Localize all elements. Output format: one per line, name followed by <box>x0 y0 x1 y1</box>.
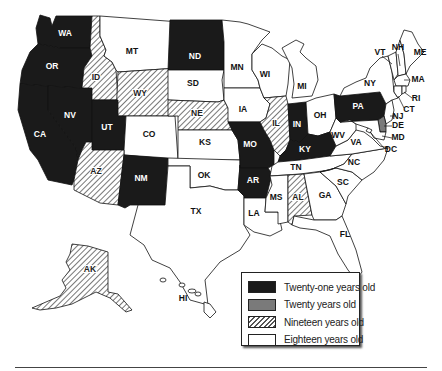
label-MT: MT <box>126 46 139 56</box>
label-DE: DE <box>392 120 404 130</box>
label-KS: KS <box>199 137 211 147</box>
legend-item-19: Nineteen years old <box>248 314 359 330</box>
label-NE: NE <box>191 108 203 118</box>
label-OR: OR <box>46 61 59 71</box>
label-KY: KY <box>299 144 311 154</box>
label-AL: AL <box>292 192 303 202</box>
label-PA: PA <box>352 101 363 111</box>
label-AR: AR <box>247 175 259 185</box>
label-UT: UT <box>101 122 113 132</box>
label-MS: MS <box>270 192 283 202</box>
label-NM: NM <box>134 173 147 183</box>
label-VA: VA <box>350 137 361 147</box>
label-IL: IL <box>272 118 280 128</box>
label-IA: IA <box>239 104 248 114</box>
label-NH: NH <box>392 42 404 52</box>
swatch-nineteen <box>248 316 276 328</box>
label-ID: ID <box>92 72 101 82</box>
label-WA: WA <box>58 28 72 38</box>
state-ND <box>168 20 224 70</box>
legend-label: Twenty years old <box>284 299 356 310</box>
label-OK: OK <box>198 170 212 180</box>
label-SD: SD <box>187 78 199 88</box>
legend-label: Twenty-one years old <box>284 282 375 293</box>
label-ND: ND <box>189 51 201 61</box>
label-ME: ME <box>414 47 427 57</box>
label-TN: TN <box>290 162 301 172</box>
label-MD: MD <box>391 132 404 142</box>
legend-item-18: Eighteen years old <box>248 332 359 348</box>
label-MO: MO <box>243 139 257 149</box>
label-NV: NV <box>64 110 76 120</box>
legend-item-21: Twenty-one years old <box>248 279 359 295</box>
legend: Twenty-one years old Twenty years old Ni… <box>241 272 360 346</box>
label-MA: MA <box>411 74 424 84</box>
state-AK <box>32 244 132 312</box>
label-HI: HI <box>179 293 188 303</box>
legend-label: Nineteen years old <box>284 317 364 328</box>
label-WV: WV <box>331 130 345 140</box>
legend-item-20: Twenty years old <box>248 297 359 313</box>
label-AK: AK <box>84 264 97 274</box>
label-AZ: AZ <box>90 166 101 176</box>
label-WY: WY <box>133 88 147 98</box>
bottom-divider <box>15 367 427 368</box>
label-CT: CT <box>403 104 415 114</box>
state-FL <box>292 216 362 280</box>
label-MI: MI <box>297 81 306 91</box>
swatch-eighteen <box>248 334 276 346</box>
legend-label: Eighteen years old <box>284 334 363 345</box>
label-GA: GA <box>319 190 332 200</box>
label-SC: SC <box>337 177 349 187</box>
label-VT: VT <box>375 47 387 57</box>
us-map: WA OR CA NV ID MT WY UT CO AZ NM ND SD N… <box>0 0 442 371</box>
swatch-twenty <box>248 299 276 311</box>
label-TX: TX <box>191 206 202 216</box>
swatch-twenty-one <box>248 281 276 293</box>
label-LA: LA <box>248 208 259 218</box>
label-CA: CA <box>34 129 46 139</box>
label-RI: RI <box>412 93 421 103</box>
label-FL: FL <box>340 229 350 239</box>
label-NY: NY <box>364 78 376 88</box>
label-DC: DC <box>385 144 397 154</box>
label-MN: MN <box>230 62 243 72</box>
label-NC: NC <box>348 157 360 167</box>
label-WI: WI <box>260 69 270 79</box>
label-IN: IN <box>293 119 302 129</box>
label-CO: CO <box>143 129 156 139</box>
label-OH: OH <box>314 110 327 120</box>
